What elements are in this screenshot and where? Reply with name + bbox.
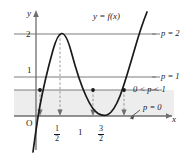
fraction-numerator: 3 <box>98 125 104 133</box>
level-label-p2: p = 2 <box>161 29 180 38</box>
y-axis-label: y <box>27 9 31 18</box>
intersection-dot-3 <box>122 88 126 92</box>
function-graph-figure: y x O y = f(x) 2 1 1 2 1 3 2 p = 2 p = 1… <box>0 0 186 156</box>
fraction-one-half: 1 2 <box>54 125 60 143</box>
x-axis-label: x <box>172 115 176 124</box>
fraction-numerator: 1 <box>54 125 60 133</box>
level-label-p0: p = 0 <box>143 103 162 112</box>
intersection-dot-2 <box>91 88 95 92</box>
y-tick-label-2: 2 <box>26 30 31 39</box>
origin-label: O <box>26 119 33 128</box>
plot-canvas <box>0 0 186 156</box>
level-label-p-mid: 0 < p < 1 <box>133 85 166 94</box>
fraction-three-halves: 3 2 <box>98 125 104 143</box>
curve-label: y = f(x) <box>93 12 120 21</box>
x-tick-label-half: 1 2 <box>54 126 60 144</box>
function-curve <box>33 12 147 152</box>
y-axis-arrowhead <box>33 10 39 17</box>
y-tick-label-1: 1 <box>27 66 32 75</box>
fraction-denominator: 2 <box>54 134 60 143</box>
level-label-p1: p = 1 <box>161 72 180 81</box>
x-tick-label-one: 1 <box>78 128 83 137</box>
x-tick-label-three-halves: 3 2 <box>98 126 104 144</box>
fraction-denominator: 2 <box>98 134 104 143</box>
intersection-dot-1 <box>38 88 42 92</box>
